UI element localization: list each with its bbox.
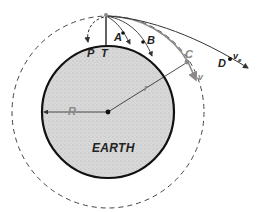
label-earth-radius: R bbox=[68, 106, 76, 117]
point-b bbox=[141, 40, 145, 44]
point-c bbox=[185, 60, 190, 65]
label-b: B bbox=[147, 35, 155, 46]
earth-label: EARTH bbox=[92, 142, 135, 154]
point-d bbox=[228, 57, 232, 61]
trajectory-p bbox=[88, 17, 104, 42]
label-d: D bbox=[218, 58, 226, 69]
label-c: C bbox=[185, 49, 193, 60]
label-orbit-radius: r bbox=[144, 84, 148, 93]
label-a: A bbox=[114, 32, 122, 43]
label-t: T bbox=[101, 48, 108, 59]
diagram-svg bbox=[0, 0, 261, 212]
label-p: P bbox=[87, 48, 94, 59]
label-velocity: v bbox=[198, 73, 203, 82]
label-escape-sub: e bbox=[238, 57, 241, 63]
cannonball-diagram: P T A B C D R r v ve EARTH bbox=[0, 0, 261, 212]
launch-point bbox=[104, 13, 108, 17]
earth-center bbox=[106, 110, 111, 115]
label-escape-velocity: ve bbox=[233, 52, 241, 63]
